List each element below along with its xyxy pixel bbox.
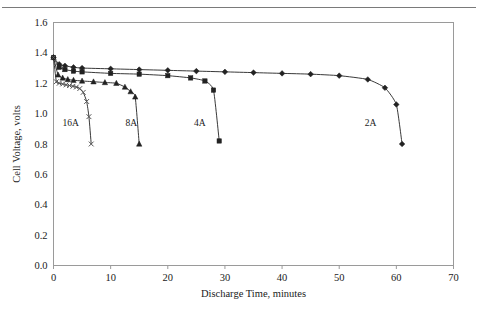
x-axis-title: Discharge Time, minutes xyxy=(201,288,306,299)
data-marker-square xyxy=(166,73,170,77)
data-marker-cross xyxy=(81,90,86,95)
y-axis-tick-label: 0.0 xyxy=(34,260,47,271)
y-axis-tick-label: 0.8 xyxy=(34,139,47,150)
series-line-2a xyxy=(54,57,403,144)
series-2a xyxy=(51,55,405,147)
data-marker-diamond xyxy=(194,68,200,74)
data-marker-diamond xyxy=(251,70,257,76)
x-axis-tick-label: 50 xyxy=(334,272,345,283)
y-axis-tick-label: 0.2 xyxy=(34,230,47,241)
data-marker-diamond xyxy=(222,69,228,75)
x-axis-tick-label: 30 xyxy=(220,272,231,283)
x-axis-tick-label: 20 xyxy=(163,272,174,283)
y-axis-title: Cell Voltage, volts xyxy=(11,105,22,183)
x-axis-tick-label: 40 xyxy=(277,272,288,283)
y-axis-tick-label: 0.6 xyxy=(34,169,47,180)
series-label-16a: 16A xyxy=(62,118,79,128)
plot-area-border xyxy=(54,23,454,266)
x-axis-tick-label: 70 xyxy=(448,272,459,283)
x-axis-tick-label: 0 xyxy=(51,272,56,283)
data-marker-square xyxy=(57,65,61,69)
chart-figure: 0.00.20.40.60.81.01.21.41.60102030405060… xyxy=(0,0,478,316)
data-marker-triangle xyxy=(55,72,60,77)
data-marker-diamond xyxy=(108,66,114,72)
data-marker-square xyxy=(203,79,207,83)
data-marker-diamond xyxy=(279,71,285,77)
data-marker-diamond xyxy=(399,141,405,147)
data-marker-square xyxy=(63,67,67,71)
data-marker-triangle xyxy=(137,141,142,146)
series-label-4a: 4A xyxy=(194,118,206,128)
x-axis-tick-label: 10 xyxy=(105,272,116,283)
y-axis-tick-label: 1.2 xyxy=(34,78,47,89)
data-marker-square xyxy=(80,70,84,74)
y-axis-tick-label: 1.4 xyxy=(34,47,48,58)
data-marker-diamond xyxy=(136,67,142,73)
y-axis-tick-label: 1.0 xyxy=(34,108,47,119)
y-axis-tick-label: 1.6 xyxy=(34,17,47,28)
data-marker-triangle xyxy=(133,94,138,99)
data-marker-triangle xyxy=(122,84,127,89)
series-label-8a: 8A xyxy=(125,118,137,128)
data-marker-square xyxy=(188,76,192,80)
data-marker-square xyxy=(211,88,215,92)
series-label-2a: 2A xyxy=(365,118,377,128)
discharge-curve-chart: 0.00.20.40.60.81.01.21.41.60102030405060… xyxy=(0,0,478,316)
data-marker-diamond xyxy=(336,73,342,79)
data-marker-square xyxy=(71,69,75,73)
data-marker-diamond xyxy=(365,77,371,83)
data-marker-square xyxy=(217,139,221,143)
data-marker-diamond xyxy=(308,71,314,77)
y-axis-tick-label: 0.4 xyxy=(34,199,48,210)
data-marker-square xyxy=(108,71,112,75)
data-marker-diamond xyxy=(165,68,171,74)
data-marker-square xyxy=(137,72,141,76)
x-axis-tick-label: 60 xyxy=(391,272,402,283)
data-marker-diamond xyxy=(394,102,400,108)
